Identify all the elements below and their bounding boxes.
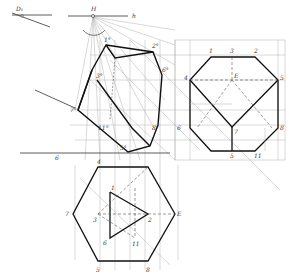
label-d1: D₁: [15, 5, 23, 12]
construction-lines: [70, 17, 285, 270]
svg-text:1: 1: [209, 47, 213, 54]
svg-text:1°: 1°: [104, 36, 111, 43]
svg-text:7°: 7°: [70, 106, 77, 113]
svg-text:11°: 11°: [98, 124, 109, 131]
svg-text:6: 6: [103, 239, 107, 246]
svg-text:8: 8: [280, 124, 284, 131]
label-H: H: [90, 5, 97, 12]
svg-text:11: 11: [132, 240, 140, 247]
horizon: [12, 13, 170, 153]
projection-diagram: D₁ H h 6 1 3 2 4 E 5 6 7 8 5 11 4 1 7 3 …: [0, 0, 289, 277]
svg-text:2°: 2°: [151, 42, 159, 49]
svg-text:7: 7: [65, 210, 69, 217]
svg-text:7: 7: [234, 128, 238, 135]
svg-text:3: 3: [93, 216, 97, 223]
svg-text:8: 8: [146, 266, 150, 273]
svg-text:E: E: [233, 72, 239, 79]
svg-text:6: 6: [177, 124, 181, 131]
svg-text:5: 5: [230, 152, 234, 159]
svg-text:11: 11: [254, 152, 262, 159]
label-h: h: [132, 12, 136, 19]
svg-text:6°: 6°: [162, 66, 169, 73]
svg-text:5°: 5°: [120, 144, 127, 151]
svg-text:5: 5: [96, 266, 100, 273]
svg-text:4: 4: [183, 74, 188, 81]
svg-text:4: 4: [96, 158, 101, 165]
svg-text:3°: 3°: [96, 72, 103, 79]
svg-text:3: 3: [230, 47, 234, 54]
svg-text:2: 2: [253, 47, 258, 54]
label-b: 6: [55, 154, 59, 161]
svg-text:8°: 8°: [152, 124, 159, 131]
svg-text:2: 2: [147, 216, 152, 223]
svg-text:1: 1: [111, 184, 115, 191]
labels: D₁ H h 6 1 3 2 4 E 5 6 7 8 5 11 4 1 7 3 …: [15, 5, 284, 273]
svg-text:5: 5: [280, 74, 284, 81]
svg-text:E: E: [176, 210, 182, 217]
